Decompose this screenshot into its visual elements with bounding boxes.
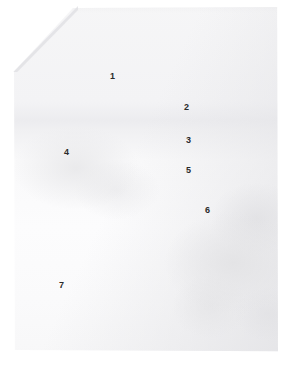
specimen-body (0, 0, 292, 365)
label-1: 1 (110, 72, 115, 81)
label-6: 6 (205, 206, 210, 215)
label-3: 3 (186, 136, 191, 145)
figure-root: 1234567 (0, 0, 292, 365)
label-7: 7 (59, 281, 64, 290)
label-4: 4 (64, 148, 69, 157)
label-2: 2 (184, 103, 189, 112)
label-5: 5 (186, 166, 191, 175)
